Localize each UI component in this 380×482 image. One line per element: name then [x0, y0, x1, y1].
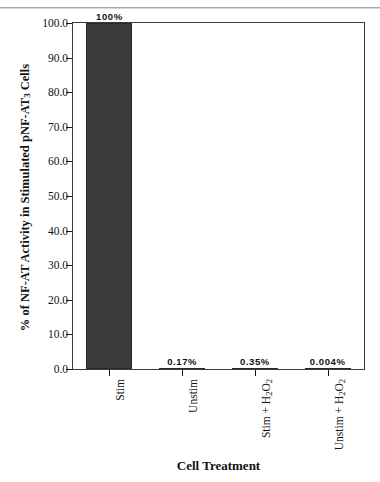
plot-area-frame	[72, 22, 365, 370]
bar-chart-figure: % of NF-AT Activity in Stimulated pNF-AT…	[0, 0, 380, 482]
y-axis-tick-label: 0.0	[30, 364, 68, 375]
y-axis-tick-label: 80.0	[30, 87, 68, 98]
bar-value-label: 0.35%	[240, 356, 270, 367]
x-axis-category-label: Stim	[114, 379, 126, 401]
bar-value-label: 0.004%	[310, 356, 346, 367]
bar-value-label: 0.17%	[167, 356, 197, 367]
y-axis-tick-labels: 0.010.020.030.040.050.060.070.080.090.01…	[30, 22, 68, 370]
y-axis-tick-label: 90.0	[30, 52, 68, 63]
x-axis-title: Cell Treatment	[72, 458, 365, 474]
x-axis-tick-mark	[182, 370, 183, 376]
x-axis-tick-mark	[109, 370, 110, 376]
y-axis-tick-label: 70.0	[30, 121, 68, 132]
y-axis-tick-label: 60.0	[30, 156, 68, 167]
x-axis-category-label: Unstim + H2O2	[333, 379, 347, 450]
y-axis-tick-label: 10.0	[30, 329, 68, 340]
y-axis-tick-label: 50.0	[30, 191, 68, 202]
y-axis-tick-label: 30.0	[30, 260, 68, 271]
y-axis-tick-label: 100.0	[30, 18, 68, 29]
y-axis-tick-label: 20.0	[30, 294, 68, 305]
bar-value-label: 100%	[96, 11, 123, 22]
x-axis-tick-mark	[255, 370, 256, 376]
x-axis-category-label: Stim + H2O2	[260, 379, 274, 438]
x-axis-category-label: Unstim	[187, 379, 199, 413]
y-axis-tick-label: 40.0	[30, 225, 68, 236]
x-axis-tick-mark	[328, 370, 329, 376]
